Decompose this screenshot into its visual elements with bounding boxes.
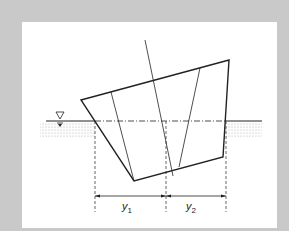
label-y2: y2 xyxy=(186,200,196,215)
arrow-y1-right xyxy=(161,195,166,198)
inner-line-right xyxy=(179,68,200,167)
water-level-icon xyxy=(56,112,64,119)
arrow-y2-left xyxy=(166,195,171,198)
label-y1: y1 xyxy=(122,200,132,215)
inner-line-left xyxy=(111,92,134,181)
axis-line xyxy=(145,40,173,176)
floating-body-outline xyxy=(81,60,229,181)
ground-hatch-left xyxy=(40,122,96,138)
floating-body-diagram xyxy=(0,0,289,231)
arrow-y1-left xyxy=(95,195,100,198)
arrow-y2-right xyxy=(221,195,226,198)
ground-hatch-right xyxy=(226,122,262,138)
